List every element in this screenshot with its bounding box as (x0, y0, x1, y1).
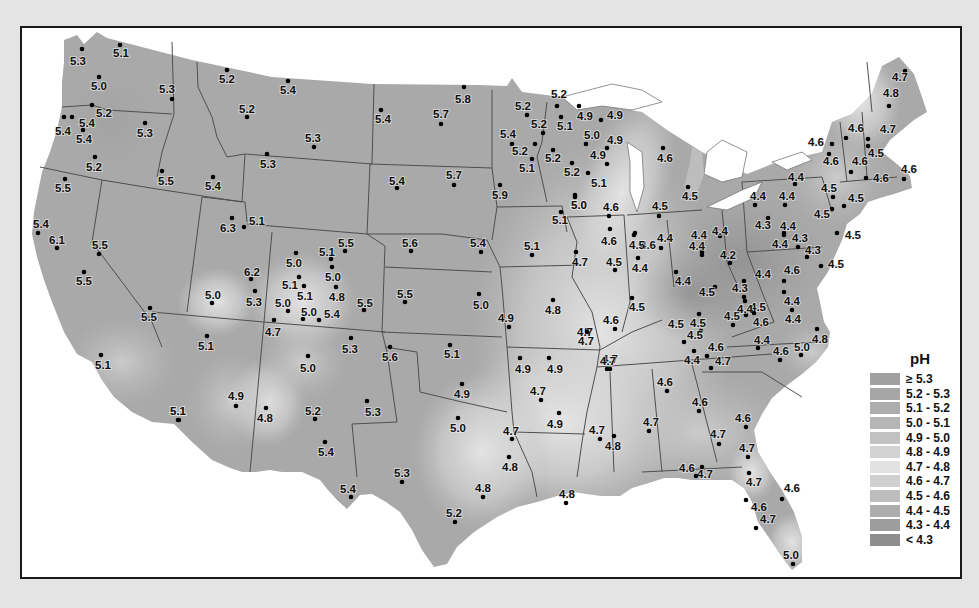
site-marker-dot (334, 285, 339, 290)
site-ph-value: 5.4 (280, 84, 297, 96)
legend-label: 4.4 - 4.5 (906, 504, 950, 518)
site-marker-dot (533, 142, 538, 147)
site-marker-dot (694, 474, 699, 479)
site-marker-dot (815, 327, 820, 332)
site-ph-value: 5.1 (249, 215, 266, 227)
site-marker-dot (541, 131, 546, 136)
site-marker-dot (902, 177, 907, 182)
site-marker-dot (835, 231, 840, 236)
site-marker-dot (313, 417, 318, 422)
ph-sample-site: 4.7 (892, 69, 908, 83)
site-marker-dot (608, 227, 613, 232)
site-marker-dot (462, 85, 467, 90)
site-ph-value: 4.6 (852, 155, 868, 167)
site-ph-value: 4.3 (732, 282, 748, 294)
site-marker-dot (456, 416, 461, 421)
site-ph-value: 5.3 (342, 343, 358, 355)
site-marker-dot (782, 233, 787, 238)
legend-swatch (870, 402, 900, 414)
site-marker-dot (63, 177, 68, 182)
site-marker-dot (844, 136, 849, 141)
site-marker-dot (728, 261, 733, 266)
site-ph-value: 5.5 (158, 175, 175, 187)
site-ph-value: 5.1 (95, 359, 112, 371)
site-marker-dot (607, 214, 612, 219)
site-marker-dot (756, 346, 761, 351)
site-marker-dot (36, 231, 41, 236)
site-marker-dot (746, 455, 751, 460)
site-marker-dot (388, 345, 393, 350)
site-marker-dot (613, 268, 618, 273)
legend-swatch (870, 490, 900, 502)
site-marker-dot (302, 284, 307, 289)
site-ph-value: 4.7 (589, 424, 605, 436)
site-ph-value: 5.0 (205, 289, 221, 301)
site-ph-value: 5.4 (55, 125, 72, 137)
site-ph-value: 4.5 (814, 208, 831, 220)
site-marker-dot (481, 495, 486, 500)
site-ph-value: 5.2 (531, 118, 547, 130)
site-ph-value: 5.5 (92, 239, 109, 251)
site-ph-value: 5.3 (365, 406, 381, 418)
site-ph-value: 5.9 (492, 189, 508, 201)
site-marker-dot (530, 253, 535, 258)
site-marker-dot (686, 185, 691, 190)
site-ph-value: 5.1 (319, 246, 336, 258)
site-ph-value: 4.9 (607, 109, 623, 121)
site-marker-dot (317, 318, 322, 323)
site-ph-value: 5.4 (500, 128, 517, 140)
site-ph-value: 5.3 (246, 296, 262, 308)
site-ph-value: 4.9 (498, 312, 514, 324)
site-ph-value: 4.7 (530, 385, 546, 397)
legend-label: 5.1 - 5.2 (906, 401, 950, 415)
site-marker-dot (842, 204, 847, 209)
legend-swatch (870, 373, 900, 385)
site-marker-dot (205, 334, 210, 339)
site-marker-dot (586, 171, 591, 176)
site-marker-dot (661, 146, 666, 151)
site-marker-dot (349, 336, 354, 341)
site-marker-dot (752, 311, 757, 316)
site-ph-value: 4.4 (754, 334, 771, 346)
site-ph-value: 4.9 (454, 388, 470, 400)
site-ph-value: 4.4 (675, 275, 692, 287)
site-marker-dot (93, 155, 98, 160)
site-ph-value: 4.4 (788, 171, 805, 183)
site-marker-dot (830, 142, 835, 147)
site-ph-value: 4.4 (785, 313, 802, 325)
legend-swatch (870, 417, 900, 429)
site-ph-value: 4.5 (652, 200, 669, 212)
site-ph-value: 4.7 (503, 425, 519, 437)
site-ph-value: 4.7 (710, 428, 726, 440)
site-ph-value: 4.2 (720, 249, 736, 261)
site-marker-dot (294, 251, 299, 256)
site-ph-value: 4.9 (515, 363, 531, 375)
site-ph-value: 5.1 (444, 348, 461, 360)
site-ph-value: 4.6 (848, 122, 864, 134)
site-marker-dot (866, 137, 871, 142)
site-ph-value: 4.6 (901, 163, 917, 175)
site-ph-value: 4.8 (502, 461, 519, 473)
site-marker-dot (598, 437, 603, 442)
site-marker-dot (697, 312, 702, 317)
site-marker-dot (659, 246, 664, 251)
site-marker-dot (323, 440, 328, 445)
site-marker-dot (170, 97, 175, 102)
site-marker-dot (754, 526, 759, 531)
legend-item: 5.2 - 5.3 (870, 387, 962, 402)
site-ph-value: 5.2 (239, 103, 255, 115)
site-marker-dot (349, 495, 354, 500)
site-marker-dot (791, 562, 796, 567)
site-ph-value: 4.5 (606, 256, 623, 268)
site-ph-value: 5.5 (76, 275, 93, 287)
site-ph-value: 4.7 (643, 416, 659, 428)
site-marker-dot (448, 343, 453, 348)
site-marker-dot (599, 118, 604, 123)
site-ph-value: 4.7 (697, 468, 713, 480)
site-ph-value: 4.8 (559, 488, 576, 500)
site-marker-dot (630, 296, 635, 301)
site-marker-dot (665, 389, 670, 394)
site-ph-value: 4.3 (805, 244, 821, 256)
site-marker-dot (697, 409, 702, 414)
site-ph-value: 5.3 (394, 467, 410, 479)
